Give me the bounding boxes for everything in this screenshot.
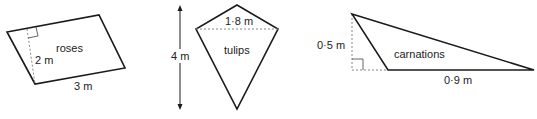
diagram-canvas: roses 2 m 3 m 4 m 1·8 m tulips 0·5 m car… [0, 0, 537, 119]
arrow-down-icon [178, 104, 183, 110]
carnations-base-label: 0·9 m [444, 74, 472, 86]
carnations-triangle [352, 14, 534, 70]
roses-figure: roses 2 m 3 m [7, 15, 125, 92]
tulips-figure: 4 m 1·8 m tulips [170, 5, 278, 110]
tulips-width-label: 1·8 m [225, 15, 253, 27]
arrow-up-icon [178, 5, 183, 11]
tulips-label: tulips [224, 44, 250, 56]
roses-label: roses [56, 42, 83, 54]
carnations-figure: 0·5 m carnations 0·9 m [317, 14, 534, 86]
roses-base-label: 3 m [74, 80, 92, 92]
roses-height-label: 2 m [35, 54, 53, 66]
tulips-height-label: 4 m [171, 50, 189, 62]
carnations-label: carnations [394, 48, 445, 60]
carnations-right-angle-mark [352, 59, 363, 70]
carnations-height-label: 0·5 m [317, 39, 345, 51]
